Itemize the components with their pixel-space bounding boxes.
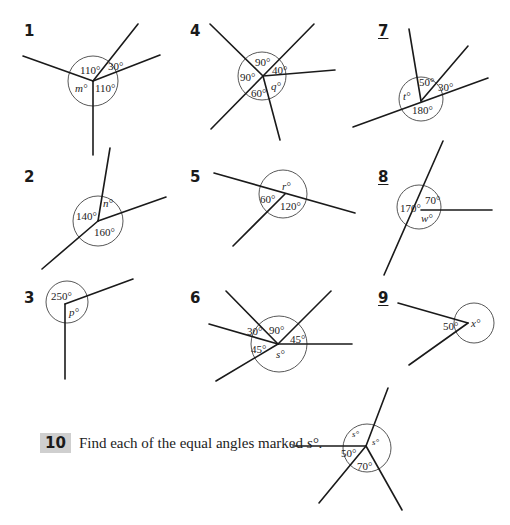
angle-label-unknown: n° <box>103 197 114 209</box>
angle-label: 45° <box>290 333 305 345</box>
diagram-6: 30° 90° 45° 45° s° <box>209 291 352 381</box>
diagram-8: 170° 70° w° <box>384 141 492 275</box>
angle-label-unknown: t° <box>403 90 411 102</box>
question-10-period: . <box>319 435 323 451</box>
question-number-10: 10 <box>40 433 71 453</box>
question-10-prompt: Find each of the equal angles marked <box>79 435 307 451</box>
angle-label: 170° <box>400 202 421 214</box>
angle-label: 110° <box>80 64 101 76</box>
angle-label-unknown: r° <box>282 180 291 192</box>
angle-label: 50° <box>419 76 434 88</box>
diagram-7: 50° 30° t° 180° <box>353 29 488 127</box>
angle-label: 160° <box>94 226 115 238</box>
angle-label-unknown: s° <box>372 437 380 447</box>
diagram-2: n° 140° 160° <box>42 148 166 269</box>
angle-label-unknown: m° <box>75 82 88 94</box>
angle-label: 120° <box>280 200 301 212</box>
angle-label: 30° <box>108 60 123 72</box>
angle-label-unknown: q° <box>271 80 282 92</box>
angle-label-unknown: p° <box>68 306 80 318</box>
angle-label: 140° <box>76 210 97 222</box>
diagram-4: 90° 40° 90° 60° q° <box>210 24 335 140</box>
question-10: 10 Find each of the equal angles marked … <box>40 433 322 453</box>
angle-label: 60° <box>251 87 266 99</box>
angle-label: 90° <box>269 324 284 336</box>
angle-label-unknown: w° <box>421 212 433 224</box>
diagram-3: 250° p° <box>46 279 133 379</box>
angle-label: 250° <box>51 290 72 302</box>
angle-label: 30° <box>247 325 262 337</box>
angle-label: 90° <box>255 56 270 68</box>
angle-label: 70° <box>357 460 372 472</box>
angle-label: 45° <box>251 343 266 355</box>
diagram-5: r° 60° 120° <box>214 170 355 246</box>
angle-label: 50° <box>341 447 356 459</box>
question-10-text: Find each of the equal angles marked s°. <box>79 435 322 452</box>
angle-label: 110° <box>95 82 116 94</box>
angle-label: 180° <box>412 104 433 116</box>
diagram-9: 50° x° <box>398 303 494 365</box>
angle-label-unknown: x° <box>470 317 481 329</box>
angle-label: 50° <box>443 320 458 332</box>
question-10-variable: s° <box>307 435 319 451</box>
angle-label: 40° <box>272 64 287 76</box>
angle-label: 70° <box>425 194 440 206</box>
diagram-1: 110° 30° 110° m° <box>23 24 160 155</box>
angle-label: 60° <box>260 193 275 205</box>
angle-label: 90° <box>240 71 255 83</box>
angle-label-unknown: s° <box>276 348 285 360</box>
angle-label-unknown: s° <box>352 429 360 439</box>
angle-label: 30° <box>438 81 453 93</box>
